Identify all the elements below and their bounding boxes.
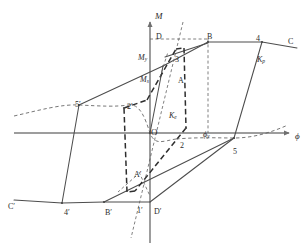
construction-dashed xyxy=(118,22,208,238)
lower-diagonal xyxy=(150,138,234,202)
label-point-dprime: D′ xyxy=(154,208,162,216)
label-stiff-kp-subscript: p xyxy=(262,58,265,64)
label-point-4: 4 xyxy=(256,35,260,43)
node-2 xyxy=(185,127,187,129)
label-moment-my-subscript: y xyxy=(145,56,147,62)
label-point-aprime: A′ xyxy=(134,171,142,179)
envelope-upper-left xyxy=(14,105,128,116)
hysteresis-figure: MϕODB4C3AMyMsKeKpϕy5′2′25A′C′4′B′1′D′ xyxy=(0,0,308,251)
node-5 xyxy=(233,137,235,139)
top-segment xyxy=(165,43,208,57)
inner-branch-up xyxy=(147,49,176,100)
label-point-c: C xyxy=(288,38,293,46)
label-point-1prime: 1′ xyxy=(137,207,143,215)
label-point-2: 2 xyxy=(180,142,184,150)
label-axis-m: M xyxy=(155,12,163,21)
label-point-2prime: 2′ xyxy=(127,103,133,111)
label-point-a: A xyxy=(178,77,184,85)
label-moment-ms-subscript: s xyxy=(147,78,149,84)
label-point-3: 3 xyxy=(175,56,179,64)
inner-top-plateau xyxy=(176,48,184,49)
label-origin-o: O xyxy=(151,128,158,137)
label-point-5prime: 5′ xyxy=(75,101,81,109)
node-bprime xyxy=(103,201,105,203)
branch-to-cprime xyxy=(14,200,62,203)
unloading-left xyxy=(62,105,79,203)
inner-unload-left xyxy=(124,108,127,192)
yield-branch-down xyxy=(62,202,104,203)
node-marks xyxy=(61,41,263,204)
label-point-cprime: C′ xyxy=(8,203,15,211)
label-point-d: D xyxy=(156,33,162,41)
main-loop xyxy=(14,42,297,203)
label-moment-my: My xyxy=(138,54,147,63)
inner-bottom-plateau xyxy=(127,191,135,192)
label-point-bprime: B′ xyxy=(105,209,112,217)
inner-branch-down xyxy=(135,128,186,191)
inner-unload-right xyxy=(184,48,186,128)
node-4 xyxy=(261,41,263,43)
node-4prime xyxy=(61,202,63,204)
label-axis-phi: ϕ xyxy=(295,132,300,141)
label-point-5: 5 xyxy=(233,148,237,156)
envelope-lower-right xyxy=(176,125,288,139)
label-stiff-kp: Kp xyxy=(257,56,265,65)
label-stiff-ke-subscript: e xyxy=(174,114,176,120)
label-point-4prime: 4′ xyxy=(64,209,70,217)
node-2prime xyxy=(123,107,125,109)
label-rot-phiy: ϕy xyxy=(203,131,210,140)
label-stiff-ke: Ke xyxy=(169,112,177,121)
label-rot-phiy-subscript: y xyxy=(207,133,209,139)
node-b xyxy=(207,41,209,43)
reverse-branch-down xyxy=(104,138,234,202)
label-point-b: B xyxy=(207,33,212,41)
label-moment-ms: Ms xyxy=(140,76,149,85)
